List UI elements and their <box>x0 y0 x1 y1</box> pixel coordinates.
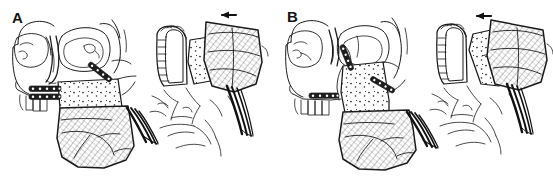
coronal-suture <box>112 20 120 38</box>
sketch-accent-2 <box>183 107 192 112</box>
orbit-anterior-detail-3 <box>301 53 311 60</box>
oblique-plate-guide-line <box>112 60 131 64</box>
pterygoid-line <box>122 82 135 95</box>
occlusal-inferior-view-b <box>430 12 553 154</box>
orbital-detail-ring <box>84 44 95 53</box>
frontal-curve <box>286 42 291 46</box>
orbit-posterior-outline <box>58 28 110 72</box>
frontal-bone-outline <box>18 21 54 44</box>
flap-posterior-edge <box>262 46 268 56</box>
panel-a-drawing <box>0 0 277 179</box>
facial-skeleton-sketch-b <box>430 86 517 154</box>
orbital-detail-tail <box>95 51 99 58</box>
panel-a: A <box>0 0 277 179</box>
flap-posterior-edge <box>547 44 553 54</box>
panel-b-label: B <box>287 9 298 24</box>
sketch-accent-2 <box>463 105 472 110</box>
vascular-pedicle-occlusal-b <box>507 84 533 134</box>
orbit-anterior-outline <box>287 31 322 68</box>
orbit-anterior-outline <box>14 34 48 68</box>
figure-container: A <box>0 0 553 179</box>
maxillary-posterior-extension <box>383 62 399 68</box>
occlusal-flap-hatching <box>198 16 270 98</box>
muscle-flap-hatching <box>50 100 145 175</box>
orbit-anterior-detail-2 <box>19 51 27 59</box>
orbit-posterior-crease <box>357 36 359 57</box>
panel-b-drawing <box>277 0 553 179</box>
lateral-skull-view-b <box>286 18 438 178</box>
nasal-bone-anterior <box>329 30 333 64</box>
temporal-outline <box>381 21 401 56</box>
skull-posterior-edge <box>405 28 407 54</box>
orbit-anterior-detail-2 <box>293 50 301 58</box>
frontal-curve <box>13 44 18 48</box>
vascular-pedicle-occlusal-a <box>227 86 253 136</box>
horizontal-plate-lower <box>29 94 61 99</box>
horizontal-plate-alveolar <box>309 93 339 98</box>
orbit-anterior-detail-1 <box>20 43 33 45</box>
occlusal-inferior-view-a <box>150 11 270 156</box>
facial-skeleton-sketch-a <box>150 88 236 156</box>
horizontal-plate-upper <box>29 86 61 91</box>
flap-direction-arrow-b <box>476 12 491 19</box>
panel-a-label: A <box>12 10 23 25</box>
lateral-skull-view-a <box>13 20 158 175</box>
skull-posterior-edge <box>124 30 126 52</box>
maxillary-teeth-row <box>295 99 329 115</box>
orbit-anterior-detail-1 <box>294 42 307 44</box>
maxillary-posterior-extension <box>118 76 136 79</box>
panel-b: B <box>277 0 553 179</box>
flap-direction-arrow-a <box>221 11 236 18</box>
